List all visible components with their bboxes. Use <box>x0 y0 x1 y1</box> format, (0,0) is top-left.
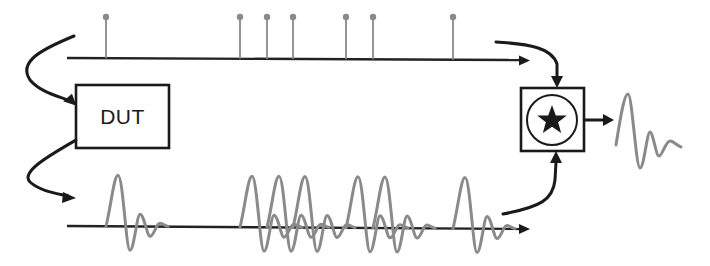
impulse-dot <box>237 14 243 20</box>
response-pulse-waveform <box>373 177 435 252</box>
output-arrowhead-icon <box>603 114 614 126</box>
output-response-signal <box>67 175 530 252</box>
bottom-axis-arrowhead-icon <box>519 224 530 234</box>
impulse-dot <box>343 14 349 20</box>
correlation-result-waveform <box>616 94 681 168</box>
impulse-dot <box>450 14 456 20</box>
input-impulse-train <box>67 14 530 66</box>
top-axis-arrowhead-icon <box>519 56 530 66</box>
impulse-stems <box>103 14 456 60</box>
correlator-block <box>521 88 584 151</box>
arrow-source-to-dut <box>27 36 74 101</box>
arrow-dut-to-response <box>28 140 76 196</box>
response-waveforms <box>106 175 515 252</box>
impulse-dot <box>370 14 376 20</box>
correlator-top-arrowhead-icon <box>551 76 563 88</box>
response-pulse-waveform <box>293 176 355 251</box>
impulse-dot <box>103 14 109 20</box>
dut-label: DUT <box>76 85 169 148</box>
top-time-axis <box>67 58 524 60</box>
impulse-dot <box>290 14 296 20</box>
response-pulse-waveform <box>453 178 515 253</box>
arrow-response-to-correlator <box>503 162 556 214</box>
correlator-bottom-arrowhead-icon <box>550 151 562 163</box>
impulse-dot <box>264 14 270 20</box>
response-pulse-waveform <box>106 175 168 250</box>
response-arrowhead-icon <box>62 192 76 203</box>
